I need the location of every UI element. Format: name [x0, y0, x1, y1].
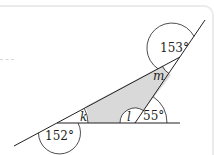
- label-m: m: [153, 69, 164, 83]
- label-l: l: [127, 110, 131, 124]
- label-55: 55°: [143, 109, 164, 123]
- label-152: 152°: [45, 129, 74, 143]
- label-k: k: [80, 110, 87, 124]
- steep-line: [135, 20, 205, 123]
- angle-diagram: 152° k l 55° m 153°: [0, 0, 219, 155]
- label-153: 153°: [160, 41, 189, 55]
